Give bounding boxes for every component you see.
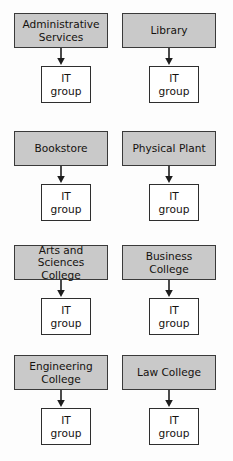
unit-box-label: Administrative Services xyxy=(22,18,99,43)
arrow-connector xyxy=(14,390,108,408)
it-group-box: IT group xyxy=(149,184,199,221)
arrow-connector xyxy=(14,166,108,184)
unit-box-label: Library xyxy=(150,24,187,37)
unit-box-arts-and-sciences-college: Arts and Sciences College xyxy=(14,245,108,280)
it-group-label: IT group xyxy=(51,304,82,329)
unit-group-physical-plant: Physical Plant IT group xyxy=(122,131,218,221)
unit-box-label: Business College xyxy=(146,250,193,275)
it-group-box: IT group xyxy=(41,184,91,221)
it-group-label: IT group xyxy=(51,414,82,439)
it-group-box: IT group xyxy=(41,298,91,335)
arrow-connector xyxy=(14,280,108,298)
unit-box-library: Library xyxy=(122,13,216,48)
arrow-connector xyxy=(122,280,216,298)
it-group-box: IT group xyxy=(41,66,91,103)
arrow-connector xyxy=(14,48,108,66)
unit-group-engineering-college: Engineering College IT group xyxy=(14,355,110,445)
it-group-box: IT group xyxy=(149,66,199,103)
it-group-label: IT group xyxy=(51,72,82,97)
unit-box-label: Law College xyxy=(137,366,201,379)
org-chart-diagram: Administrative Services IT group Library… xyxy=(0,0,233,461)
unit-box-label: Engineering College xyxy=(29,360,93,385)
unit-group-arts-and-sciences-college: Arts and Sciences College IT group xyxy=(14,245,110,335)
it-group-label: IT group xyxy=(159,304,190,329)
it-group-box: IT group xyxy=(149,298,199,335)
it-group-box: IT group xyxy=(149,408,199,445)
unit-box-bookstore: Bookstore xyxy=(14,131,108,166)
unit-group-administrative-services: Administrative Services IT group xyxy=(14,13,110,103)
arrow-connector xyxy=(122,390,216,408)
unit-box-physical-plant: Physical Plant xyxy=(122,131,216,166)
arrow-connector xyxy=(122,48,216,66)
unit-box-administrative-services: Administrative Services xyxy=(14,13,108,48)
unit-box-label: Physical Plant xyxy=(132,142,205,155)
unit-box-engineering-college: Engineering College xyxy=(14,355,108,390)
unit-group-law-college: Law College IT group xyxy=(122,355,218,445)
unit-box-law-college: Law College xyxy=(122,355,216,390)
unit-group-bookstore: Bookstore IT group xyxy=(14,131,110,221)
it-group-label: IT group xyxy=(51,190,82,215)
unit-group-library: Library IT group xyxy=(122,13,218,103)
it-group-label: IT group xyxy=(159,190,190,215)
arrow-connector xyxy=(122,166,216,184)
unit-box-label: Bookstore xyxy=(34,142,87,155)
it-group-label: IT group xyxy=(159,414,190,439)
unit-box-label: Arts and Sciences College xyxy=(18,244,104,282)
unit-box-business-college: Business College xyxy=(122,245,216,280)
unit-group-business-college: Business College IT group xyxy=(122,245,218,335)
it-group-label: IT group xyxy=(159,72,190,97)
it-group-box: IT group xyxy=(41,408,91,445)
